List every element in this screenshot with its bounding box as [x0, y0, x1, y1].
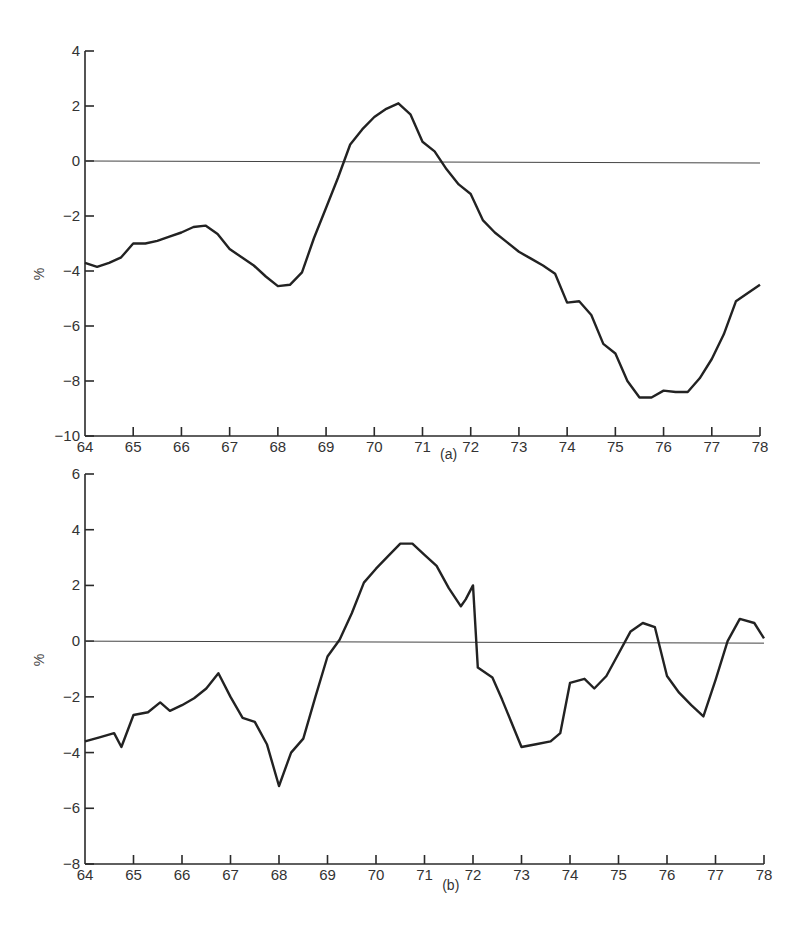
- zero-reference-line: [85, 641, 764, 643]
- y-tick-label: −4: [63, 744, 80, 761]
- data-series-line: [85, 544, 764, 786]
- x-tick-label: 78: [752, 438, 769, 455]
- data-series-line: [85, 103, 760, 397]
- y-tick-label: −4: [63, 262, 80, 279]
- chart-panel-a: 420−2−4−6−8−1064656667686970717273747576…: [31, 42, 768, 462]
- x-tick-label: 70: [368, 866, 385, 883]
- x-tick-label: 75: [607, 438, 624, 455]
- x-tick-label: 69: [319, 866, 336, 883]
- x-tick-label: 66: [173, 438, 190, 455]
- x-tick-label: 78: [756, 866, 773, 883]
- x-tick-label: 65: [125, 438, 142, 455]
- x-tick-label: 73: [513, 866, 530, 883]
- y-tick-label: 6: [72, 465, 80, 482]
- panel-label: (a): [440, 446, 457, 462]
- figure: 420−2−4−6−8−1064656667686970717273747576…: [0, 0, 809, 932]
- y-tick-label: −8: [63, 372, 80, 389]
- x-tick-label: 76: [659, 866, 676, 883]
- x-tick-label: 64: [77, 866, 94, 883]
- panel-label: (b): [442, 877, 459, 893]
- x-tick-label: 76: [655, 438, 672, 455]
- y-tick-label: −6: [63, 799, 80, 816]
- x-tick-label: 72: [465, 866, 482, 883]
- y-tick-label: 0: [72, 152, 80, 169]
- y-axis-label: %: [31, 268, 47, 280]
- x-tick-label: 73: [511, 438, 528, 455]
- y-tick-label: −2: [63, 207, 80, 224]
- x-tick-label: 64: [77, 438, 94, 455]
- x-tick-label: 70: [366, 438, 383, 455]
- zero-reference-line: [85, 161, 760, 163]
- y-axis-label: %: [31, 654, 47, 666]
- x-tick-label: 67: [221, 438, 238, 455]
- y-tick-label: 2: [72, 97, 80, 114]
- x-tick-label: 77: [707, 866, 724, 883]
- x-tick-label: 68: [270, 438, 287, 455]
- y-tick-label: 4: [72, 521, 80, 538]
- x-tick-label: 69: [318, 438, 335, 455]
- x-tick-label: 66: [174, 866, 191, 883]
- chart-panel-b: 6420−2−4−6−86465666768697071727374757677…: [31, 465, 772, 893]
- x-tick-label: 74: [562, 866, 579, 883]
- x-tick-label: 74: [559, 438, 576, 455]
- x-tick-label: 65: [125, 866, 142, 883]
- x-tick-label: 71: [414, 438, 431, 455]
- y-tick-label: −6: [63, 317, 80, 334]
- x-tick-label: 77: [703, 438, 720, 455]
- x-tick-label: 68: [271, 866, 288, 883]
- x-tick-label: 67: [222, 866, 239, 883]
- y-tick-label: 2: [72, 576, 80, 593]
- x-tick-label: 75: [610, 866, 627, 883]
- y-tick-label: −2: [63, 688, 80, 705]
- y-tick-label: 4: [72, 42, 80, 59]
- y-tick-label: 0: [72, 632, 80, 649]
- x-tick-label: 71: [416, 866, 433, 883]
- x-tick-label: 72: [462, 438, 479, 455]
